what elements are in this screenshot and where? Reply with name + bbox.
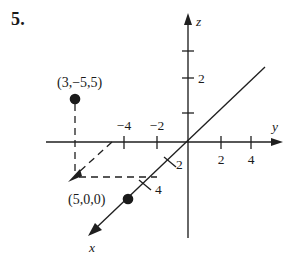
y-axis-label: y	[270, 119, 278, 134]
x-tick-label-2: 2	[176, 157, 183, 172]
y-tick-label-pos-2: 2	[218, 152, 225, 167]
point-5-0-0-dot	[123, 194, 134, 205]
y-tick-label-neg-2: −2	[150, 118, 164, 133]
figure-root: 5.	[0, 0, 303, 261]
x-tick-label-4: 4	[155, 182, 162, 197]
x-axis-line	[96, 67, 265, 228]
y-tick-label-pos-4: 4	[248, 152, 255, 167]
x-axis-label: x	[88, 240, 95, 255]
y-tick-label-neg-4: −4	[117, 118, 132, 133]
z-tick-label-2: 2	[198, 71, 205, 86]
point-3-neg5-5-label: (3,−5,5)	[57, 75, 103, 91]
coordinate-axes-diagram: z y x 2 −4 −2 2 4 2 4 (3,−5,5) (5,0,0)	[0, 0, 303, 261]
point-5-0-0-label: (5,0,0)	[68, 192, 106, 208]
point-3-neg5-5-dot	[70, 94, 81, 105]
z-axis-label: z	[195, 14, 202, 29]
dashed-diagonal-segment	[79, 142, 112, 172]
z-axis-arrowhead	[184, 13, 192, 25]
y-axis-arrowhead	[271, 138, 283, 146]
